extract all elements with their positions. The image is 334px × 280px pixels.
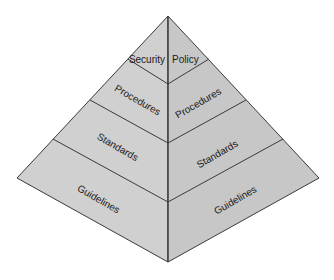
level-1-right-label: Policy bbox=[172, 54, 199, 65]
left-face bbox=[17, 16, 168, 262]
security-pyramid: Security Policy Procedures Procedures St… bbox=[0, 0, 334, 280]
level-1-left-label: Security bbox=[129, 54, 165, 65]
right-face bbox=[168, 16, 319, 262]
